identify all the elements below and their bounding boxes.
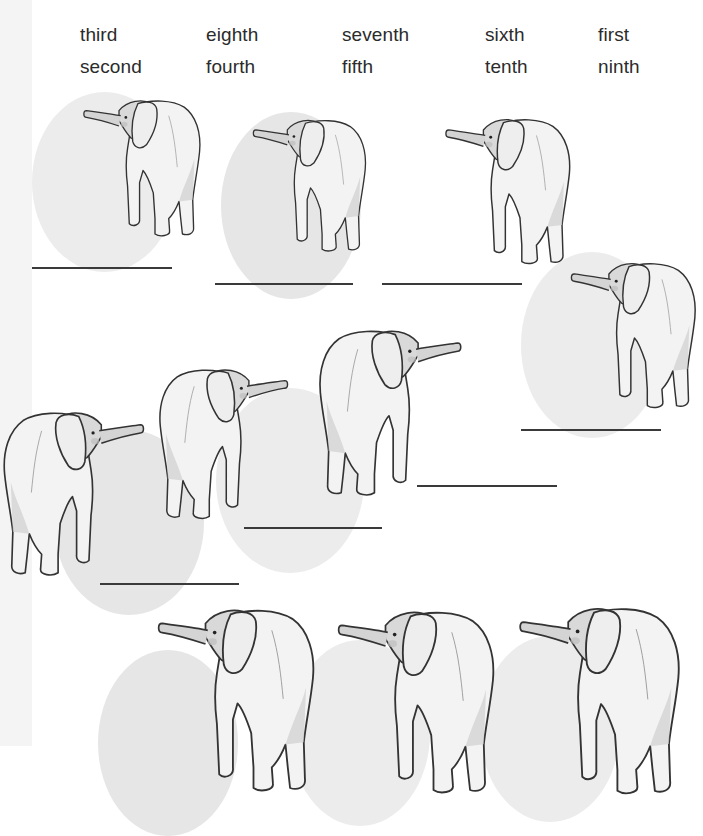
word-seventh: seventh [342,24,409,46]
answer-line-1[interactable] [32,267,172,269]
answer-line-2[interactable] [215,283,353,285]
elephant-illustration [330,598,505,798]
word-first: first [598,24,629,46]
elephant-illustration [248,110,373,255]
answer-line-3[interactable] [382,283,522,285]
elephant-illustration [145,358,300,523]
word-third: third [80,24,117,46]
word-bank: third eighth seventh sixth first second … [0,0,703,90]
elephant-illustration [0,400,150,580]
word-eighth: eighth [206,24,258,46]
word-tenth: tenth [485,56,528,78]
elephant-illustration [562,252,703,412]
word-fourth: fourth [206,56,255,78]
elephant-illustration [310,318,468,500]
word-fifth: fifth [342,56,373,78]
word-sixth: sixth [485,24,525,46]
elephant-illustration [68,90,218,240]
answer-line-7[interactable] [100,583,239,585]
page-edge-strip [0,0,32,746]
elephant-illustration [434,108,584,268]
word-ninth: ninth [598,56,640,78]
answer-line-4[interactable] [521,429,661,431]
elephant-illustration [506,594,696,799]
word-second: second [80,56,142,78]
elephant-illustration [150,596,325,796]
answer-line-6[interactable] [244,527,382,529]
answer-line-5[interactable] [417,485,557,487]
